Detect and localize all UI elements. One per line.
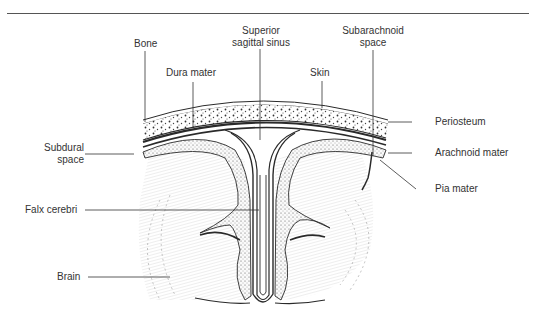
label-pia-mater: Pia mater xyxy=(435,183,478,195)
label-subarachnoid-space-line1: Subarachnoid xyxy=(338,25,408,37)
label-subarachnoid-space: Subarachnoid space xyxy=(338,25,408,49)
label-subarachnoid-space-line2: space xyxy=(338,37,408,49)
label-bone: Bone xyxy=(134,38,157,50)
label-superior-sagittal-sinus-line2: sagittal sinus xyxy=(228,37,294,49)
label-skin: Skin xyxy=(310,67,329,79)
label-subdural-space: Subdural space xyxy=(30,142,84,166)
label-brain: Brain xyxy=(57,271,80,283)
label-arachnoid-mater: Arachnoid mater xyxy=(435,147,508,159)
label-subdural-space-line1: Subdural xyxy=(30,142,84,154)
label-falx-cerebri: Falx cerebri xyxy=(25,204,77,216)
label-superior-sagittal-sinus-line1: Superior xyxy=(228,25,294,37)
label-subdural-space-line2: space xyxy=(30,154,84,166)
label-superior-sagittal-sinus: Superior sagittal sinus xyxy=(228,25,294,49)
brain-tissue xyxy=(139,147,374,300)
label-dura-mater: Dura mater xyxy=(166,67,216,79)
label-periosteum: Periosteum xyxy=(435,116,486,128)
right-base xyxy=(275,300,325,304)
